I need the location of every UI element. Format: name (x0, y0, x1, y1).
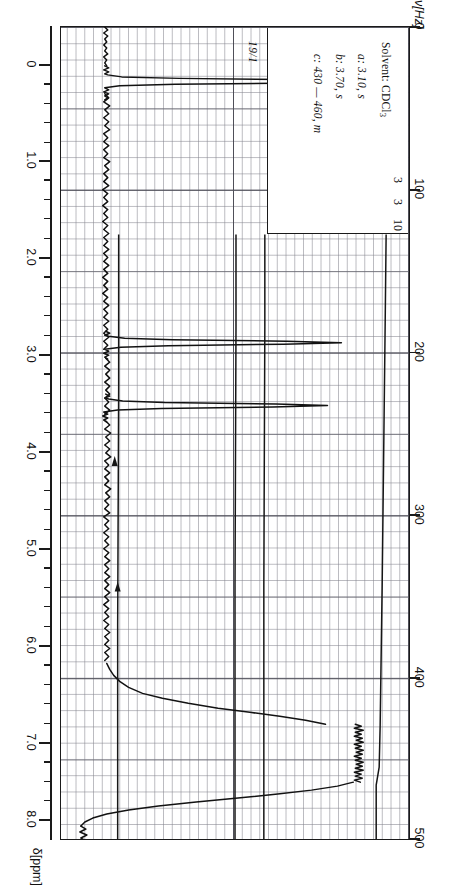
assignment-a: a: 3.10, s (356, 54, 368, 99)
hz-major-tick (410, 189, 420, 191)
integral-value-c: 10 (390, 219, 405, 231)
ppm-minor-tick (44, 432, 50, 433)
frequency-axis: ν[Hz] 0 100 200 300 400 500 (408, 26, 424, 840)
ppm-minor-tick (44, 142, 50, 143)
ppm-minor-tick (44, 606, 50, 607)
ppm-minor-tick (44, 703, 50, 704)
solvent-label: Solvent: CDCl3 (378, 42, 392, 117)
hz-major-tick (410, 838, 420, 840)
ppm-minor-tick (44, 83, 50, 84)
ppm-minor-tick (44, 490, 50, 491)
ppm-tick-label: 4.0 (24, 442, 38, 459)
ppm-tick-label: 5.0 (24, 539, 38, 556)
hz-major-tick (410, 677, 420, 679)
ppm-major-tick (39, 160, 50, 162)
ppm-minor-tick (44, 529, 50, 530)
annotation-box: Solvent: CDCl3 a: 3.10, s b: 3.70, s c: … (267, 28, 408, 234)
ppm-tick-label: 0 (24, 61, 38, 68)
ppm-major-tick (39, 354, 50, 356)
ppm-tick-label: 2.0 (24, 248, 38, 265)
ppm-tick-label: 6.0 (24, 636, 38, 653)
integral-value-a: 3 (390, 177, 405, 183)
hz-major-tick (410, 26, 420, 28)
ppm-tick-label: 8.0 (24, 810, 38, 827)
ppm-minor-tick (44, 587, 50, 588)
ppm-minor-tick (44, 509, 50, 510)
ppm-minor-tick (44, 800, 50, 801)
ppm-minor-tick (44, 238, 50, 239)
ppm-tick-label: 1.0 (24, 151, 38, 168)
ppm-minor-tick (44, 296, 50, 297)
ppm-major-tick (39, 64, 50, 66)
ppm-minor-tick (44, 626, 50, 627)
ppm-minor-tick (44, 684, 50, 685)
ppm-minor-tick (44, 412, 50, 413)
ppm-tick-label: 3.0 (24, 345, 38, 362)
spectrum-plot-area: Solvent: CDCl3 a: 3.10, s b: 3.70, s c: … (60, 26, 410, 840)
ppm-major-tick (39, 451, 50, 453)
ppm-minor-tick (44, 393, 50, 394)
integral-value-b: 3 (390, 199, 405, 205)
ppm-minor-tick (44, 199, 50, 200)
ppm-tick-label: 7.0 (24, 733, 38, 750)
ppm-minor-tick (44, 218, 50, 219)
ppm-minor-tick (44, 470, 50, 471)
ppm-minor-tick (44, 567, 50, 568)
ppm-minor-tick (44, 761, 50, 762)
ppm-minor-tick (44, 276, 50, 277)
assignment-b: b: 3.70, s (334, 54, 346, 99)
ppm-major-tick (39, 645, 50, 647)
ppm-minor-tick (44, 373, 50, 374)
ppm-minor-tick (44, 103, 50, 104)
ppm-minor-tick (44, 664, 50, 665)
ppm-minor-tick (44, 315, 50, 316)
ppm-minor-tick (44, 335, 50, 336)
ppm-minor-tick (44, 781, 50, 782)
hz-major-tick (410, 352, 420, 354)
ppm-major-tick (39, 819, 50, 821)
ppm-axis-label: δ[ppm] (30, 848, 44, 886)
ppm-minor-tick (44, 179, 50, 180)
ppm-axis-line (50, 26, 52, 840)
ppm-major-tick (39, 548, 50, 550)
ppm-major-tick (39, 742, 50, 744)
ppm-axis: δ[ppm] (22, 26, 52, 840)
ppm-major-tick (39, 257, 50, 259)
ppm-minor-tick (44, 122, 50, 123)
sample-label: 19/1 (247, 41, 259, 63)
assignment-c: c: 430 — 460, m (312, 54, 324, 133)
ppm-minor-tick (44, 723, 50, 724)
hz-major-tick (410, 514, 420, 516)
